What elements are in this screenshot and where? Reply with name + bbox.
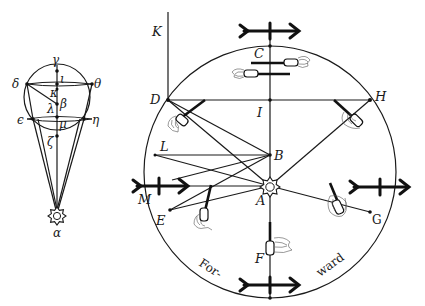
label-kappa: κ (49, 86, 58, 100)
label-theta: θ (94, 77, 102, 91)
cone-line-1 (33, 119, 56, 210)
line-theta-eta (84, 84, 92, 119)
left-diagram: γ δ θ ι κ β λ ϵ μ η ζ α (12, 53, 102, 240)
label-B: B (273, 148, 284, 163)
main-diagram: K C D H I L B M A E G F For- ward (133, 12, 409, 300)
label-alpha: α (53, 226, 61, 240)
label-A: A (255, 193, 265, 208)
label-mu: μ (59, 117, 67, 131)
label-beta: β (59, 97, 67, 111)
label-L: L (159, 139, 169, 154)
boat-icon (328, 183, 347, 217)
label-delta: δ (12, 77, 19, 91)
boat-icon (334, 100, 364, 129)
label-F: F (254, 251, 265, 266)
label-lambda: λ (46, 102, 55, 116)
label-G: G (372, 213, 382, 227)
label-zeta: ζ (47, 135, 55, 149)
line-H-A (270, 100, 370, 186)
label-E: E (155, 213, 166, 228)
boat-icon (266, 222, 292, 255)
diagram-canvas: γ δ θ ι κ β λ ϵ μ η ζ α (0, 0, 425, 306)
label-D: D (149, 92, 161, 107)
line-M-B (172, 155, 270, 180)
boat-icon (232, 69, 290, 79)
cone-line-2 (38, 119, 57, 210)
label-eta: η (92, 113, 100, 127)
label-C: C (254, 46, 264, 61)
label-gamma: γ (52, 53, 60, 67)
sun-icon (48, 207, 66, 225)
figure: γ δ θ ι κ β λ ϵ μ η ζ α (0, 0, 425, 306)
label-I: I (256, 105, 263, 120)
line-D-B (168, 100, 270, 155)
cone-line-4 (58, 119, 84, 210)
label-iota: ι (60, 72, 65, 86)
label-epsilon: ϵ (17, 113, 24, 127)
arrow-icon (240, 277, 299, 293)
label-M: M (137, 192, 152, 207)
line-D-A (168, 100, 270, 186)
arrow-icon (350, 179, 409, 195)
cone-line-3 (57, 119, 80, 210)
label-K: K (151, 24, 163, 39)
arrow-icon (240, 23, 299, 39)
label-H: H (374, 89, 387, 104)
